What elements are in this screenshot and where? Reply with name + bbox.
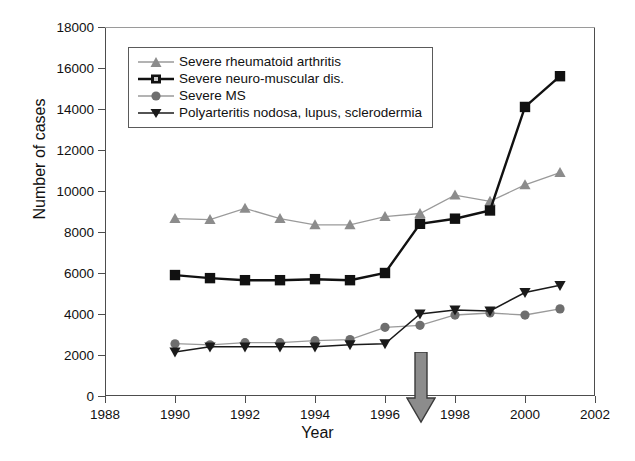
x-tick — [105, 396, 106, 403]
data-point — [519, 288, 530, 298]
data-point — [415, 321, 424, 330]
y-tick — [98, 68, 105, 69]
circle-marker-icon — [137, 89, 175, 103]
legend-item-3: Polyarteritis nodosa, lupus, sclerodermi… — [137, 104, 422, 121]
x-tick-label: 1992 — [230, 407, 260, 422]
x-tick-label: 1994 — [300, 407, 330, 422]
y-tick — [98, 273, 105, 274]
x-tick-label: 1998 — [440, 407, 470, 422]
x-tick — [455, 396, 456, 403]
y-tick-label: 10000 — [56, 184, 94, 199]
chart-page: Number of cases Year 0200040006000800010… — [0, 0, 635, 461]
legend-item-2: Severe MS — [137, 87, 422, 104]
legend-label-3: Polyarteritis nodosa, lupus, sclerodermi… — [175, 105, 422, 120]
series-3 — [169, 281, 565, 358]
y-tick-label: 4000 — [64, 307, 94, 322]
x-tick — [385, 396, 386, 403]
x-tick-label: 1990 — [160, 407, 190, 422]
series-0 — [169, 167, 565, 229]
series-2 — [170, 304, 564, 349]
x-tick — [245, 396, 246, 403]
y-tick-label: 18000 — [56, 20, 94, 35]
y-tick — [98, 109, 105, 110]
data-point — [170, 339, 179, 348]
data-point — [239, 203, 250, 213]
y-tick-label: 0 — [86, 389, 94, 404]
square-marker-icon — [137, 72, 175, 86]
data-point — [554, 167, 565, 177]
y-tick — [98, 191, 105, 192]
x-tick-label: 2002 — [580, 407, 610, 422]
data-point — [380, 323, 389, 332]
data-point — [450, 213, 460, 223]
data-point — [555, 71, 565, 81]
data-point — [415, 219, 425, 229]
series-line — [175, 309, 560, 345]
data-point — [240, 275, 250, 285]
x-tick — [525, 396, 526, 403]
chart-legend: Severe rheumatoid arthritis Severe neuro… — [128, 47, 433, 128]
y-tick — [98, 396, 105, 397]
x-tick-label: 1988 — [90, 407, 120, 422]
data-point — [520, 102, 530, 112]
y-tick — [98, 27, 105, 28]
legend-label-1: Severe neuro-muscular dis. — [175, 71, 344, 86]
y-tick-label: 12000 — [56, 143, 94, 158]
data-point — [169, 348, 180, 358]
y-tick-label: 14000 — [56, 102, 94, 117]
y-tick-label: 8000 — [64, 225, 94, 240]
y-axis-title: Number of cases — [31, 59, 49, 259]
x-axis-title: Year — [0, 424, 635, 442]
triangle-up-marker-icon — [137, 55, 175, 69]
data-point — [519, 179, 530, 189]
y-tick — [98, 314, 105, 315]
y-tick — [98, 355, 105, 356]
y-tick — [98, 232, 105, 233]
data-point — [414, 208, 425, 218]
data-point — [345, 275, 355, 285]
legend-item-0: Severe rheumatoid arthritis — [137, 53, 422, 70]
data-point — [275, 275, 285, 285]
data-point — [380, 268, 390, 278]
data-point — [485, 205, 495, 215]
annotation-down-arrow-icon — [406, 352, 436, 424]
legend-label-0: Severe rheumatoid arthritis — [175, 54, 341, 69]
series-line — [175, 173, 560, 225]
data-point — [520, 310, 529, 319]
data-point — [205, 273, 215, 283]
y-tick-label: 6000 — [64, 266, 94, 281]
data-point — [555, 304, 564, 313]
x-tick-label: 1996 — [370, 407, 400, 422]
x-tick-label: 2000 — [510, 407, 540, 422]
x-tick — [595, 396, 596, 403]
y-tick-label: 16000 — [56, 61, 94, 76]
legend-item-1: Severe neuro-muscular dis. — [137, 70, 422, 87]
legend-label-2: Severe MS — [175, 88, 246, 103]
y-tick-label: 2000 — [64, 348, 94, 363]
data-point — [449, 190, 460, 200]
x-tick — [175, 396, 176, 403]
triangle-down-marker-icon — [137, 106, 175, 120]
x-tick — [315, 396, 316, 403]
data-point — [170, 270, 180, 280]
series-line — [175, 285, 560, 352]
y-tick — [98, 150, 105, 151]
data-point — [169, 213, 180, 223]
data-point — [310, 274, 320, 284]
